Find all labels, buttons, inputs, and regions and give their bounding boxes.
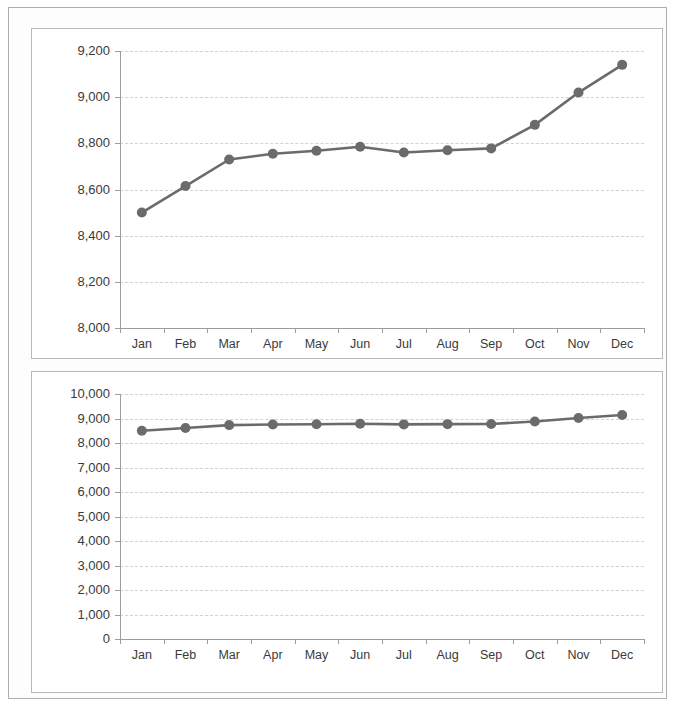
series-line-bottom [32, 372, 662, 692]
series-line-top [32, 29, 662, 358]
data-point-marker [355, 142, 365, 152]
series-path [142, 65, 622, 213]
data-point-marker [355, 419, 365, 429]
plot-area-top: 9,2009,0008,8008,6008,4008,2008,000JanFe… [32, 29, 662, 358]
data-point-marker [617, 60, 627, 70]
data-point-marker [399, 419, 409, 429]
data-point-marker [137, 426, 147, 436]
data-point-marker [224, 154, 234, 164]
data-point-marker [530, 416, 540, 426]
screenshot-outer-frame: 9,2009,0008,8008,6008,4008,2008,000JanFe… [8, 7, 667, 699]
data-point-marker [617, 410, 627, 420]
data-point-marker [486, 419, 496, 429]
data-point-marker [224, 420, 234, 430]
data-point-marker [443, 419, 453, 429]
data-point-marker [312, 419, 322, 429]
data-point-marker [530, 120, 540, 130]
series-path [142, 415, 622, 431]
data-point-marker [268, 420, 278, 430]
data-point-marker [181, 423, 191, 433]
data-point-marker [268, 149, 278, 159]
data-point-marker [181, 181, 191, 191]
data-point-marker [399, 148, 409, 158]
data-point-marker [312, 146, 322, 156]
chart-panel-bottom: 10,0009,0008,0007,0006,0005,0004,0003,00… [31, 371, 663, 693]
chart-panel-top: 9,2009,0008,8008,6008,4008,2008,000JanFe… [31, 28, 663, 359]
data-point-marker [486, 143, 496, 153]
data-point-marker [443, 145, 453, 155]
data-point-marker [137, 208, 147, 218]
plot-area-bottom: 10,0009,0008,0007,0006,0005,0004,0003,00… [32, 372, 662, 692]
data-point-marker [574, 413, 584, 423]
data-point-marker [574, 88, 584, 98]
